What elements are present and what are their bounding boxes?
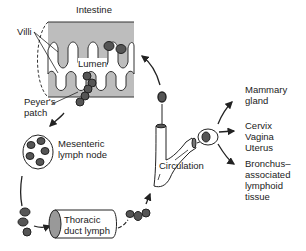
lymphocyte <box>202 132 210 142</box>
lymphocyte <box>134 212 142 221</box>
arrow-thoracic-out <box>118 220 128 228</box>
arrow-to-cervix <box>219 131 234 132</box>
circulation-vessel <box>154 124 196 187</box>
label-lumen: Lumen <box>78 58 107 69</box>
label-mesenteric-lymph-node: Mesenteric lymph node <box>58 138 107 160</box>
lymphocyte <box>20 208 30 216</box>
arrow-to-intestine <box>142 56 160 85</box>
label-mammary-gland: Mammary gland <box>245 84 287 106</box>
label-villi: Villi <box>17 26 32 37</box>
arrow-to-bronchus <box>218 144 234 164</box>
arrow-to-mammary <box>218 102 232 124</box>
label-cervix-vagina-uterus: Cervix Vagina Uterus <box>245 120 274 153</box>
lymphocyte-homing-diagram: Intestine Villi Lumen Peyer's patch Mese… <box>0 0 306 251</box>
label-bronchus-associated-lymphoid-tissue: Bronchus– associated lymphoid tissue <box>245 158 290 202</box>
lymphocyte <box>18 218 28 226</box>
lymphocyte <box>142 209 150 217</box>
arrow-to-circulation <box>146 194 150 204</box>
label-peyers-patch: Peyer's patch <box>24 96 55 118</box>
arrow-into-thoracic <box>34 226 50 228</box>
label-thoracic-duct-lymph: Thoracic duct lymph <box>64 214 110 236</box>
mesenteric-lymph-node <box>23 135 53 169</box>
lymphocyte <box>23 228 31 236</box>
arrow-node-down <box>21 176 23 206</box>
label-circulation: Circulation <box>159 160 204 171</box>
label-intestine: Intestine <box>76 4 112 15</box>
lymphocyte <box>126 211 134 218</box>
lymphocyte <box>158 92 166 102</box>
